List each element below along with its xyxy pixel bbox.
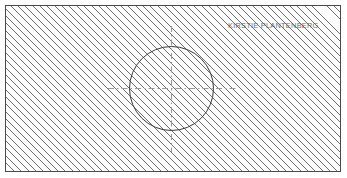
hatched-section-rectangle — [5, 5, 341, 172]
technical-drawing-figure: KIRSTIE PLANTENBERG — [0, 0, 347, 178]
author-watermark-text: KIRSTIE PLANTENBERG — [228, 21, 319, 30]
